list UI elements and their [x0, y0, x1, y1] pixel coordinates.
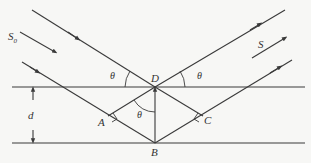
bragg-diagram: S0 S D A B C d θ θ θ [0, 0, 311, 163]
label-A: A [97, 116, 105, 128]
label-d: d [28, 109, 34, 121]
perpendicular-DC [155, 87, 203, 116]
label-C: C [204, 114, 212, 126]
incident-ray-upper [32, 10, 155, 87]
perpendicular-DA [108, 87, 155, 116]
label-theta-left: θ [110, 70, 115, 81]
arrow-icon [68, 32, 78, 39]
angle-arc-left [125, 71, 130, 87]
angle-arc-right [180, 71, 185, 87]
label-B: B [151, 146, 158, 158]
reflected-beam-arrow [252, 38, 285, 58]
label-S0: S0 [8, 30, 18, 45]
label-theta-right: θ [197, 70, 202, 81]
incident-beam-arrow [20, 32, 55, 52]
label-theta-inner: θ [137, 109, 142, 120]
label-S: S [258, 38, 264, 50]
label-D: D [150, 72, 159, 84]
arrow-icon [250, 24, 260, 30]
arrow-icon [30, 67, 38, 72]
arrow-icon [270, 67, 280, 73]
